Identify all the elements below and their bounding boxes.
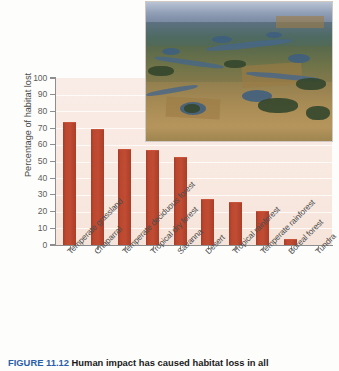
photo-tree-grove	[148, 66, 174, 76]
y-axis-tick	[50, 128, 56, 129]
figure-container: 0102030405060708090100 Percentage of hab…	[0, 0, 339, 371]
photo-tree-grove	[296, 78, 326, 90]
photo-pond	[266, 32, 282, 38]
y-axis-tick	[50, 228, 56, 229]
photo-pond	[212, 36, 232, 43]
photo-pond	[162, 48, 180, 55]
photo-field	[276, 16, 324, 28]
y-axis-tick	[50, 211, 56, 212]
bar[interactable]	[63, 122, 76, 245]
y-axis-tick-label: 10	[21, 223, 47, 233]
y-axis-tick	[50, 94, 56, 95]
aerial-wetland-photo	[146, 2, 332, 141]
photo-tree-grove	[306, 106, 330, 120]
photo-tree-grove	[224, 60, 246, 68]
y-axis-tick-label: 20	[21, 206, 47, 216]
y-axis-title: Percentage of habitat lost	[23, 45, 33, 205]
y-axis-tick	[50, 194, 56, 195]
figure-number: FIGURE 11.12	[8, 357, 69, 368]
bar-slot	[56, 78, 84, 245]
photo-tree-grove	[258, 98, 298, 113]
y-axis-tick	[50, 178, 56, 179]
y-axis-tick	[50, 77, 56, 78]
y-axis-tick	[50, 111, 56, 112]
y-axis-tick	[50, 144, 56, 145]
figure-caption-text: Human impact has caused habitat loss in …	[72, 357, 269, 368]
photo-pond	[288, 54, 310, 63]
y-axis-tick-label: 0	[21, 240, 47, 250]
y-axis-tick	[50, 161, 56, 162]
photo-tree-grove	[184, 104, 200, 113]
figure-caption: FIGURE 11.12 Human impact has caused hab…	[8, 357, 333, 368]
y-axis-tick	[50, 244, 56, 245]
bar-slot	[111, 78, 139, 245]
